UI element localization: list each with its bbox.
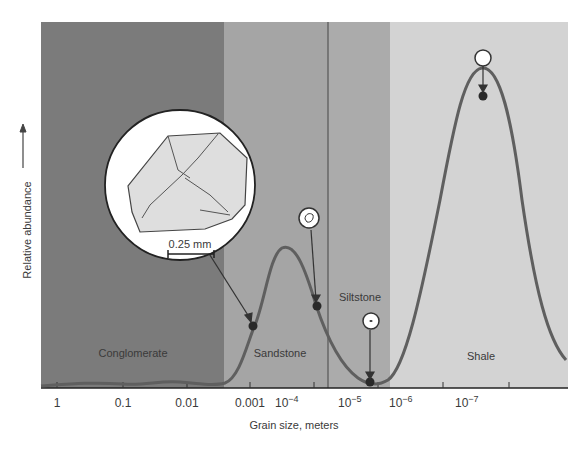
svg-text:10−7: 10−7 bbox=[455, 394, 479, 410]
svg-text:1: 1 bbox=[54, 396, 61, 410]
x-tick-labels: 1 0.1 0.01 0.001 10−4 10−5 10−6 10−7 bbox=[54, 394, 479, 410]
zone-shale bbox=[390, 22, 568, 388]
clay-particle-icon bbox=[475, 50, 491, 66]
marker-sand bbox=[249, 322, 258, 331]
sand-grain-inset: 0.25 mm bbox=[105, 110, 255, 260]
svg-text:0.1: 0.1 bbox=[115, 396, 132, 410]
svg-text:0.001: 0.001 bbox=[235, 396, 265, 410]
silt-grain-icon bbox=[299, 208, 319, 228]
svg-text:10−4: 10−4 bbox=[275, 394, 299, 410]
zone-siltstone bbox=[328, 22, 390, 388]
zone-label-conglomerate: Conglomerate bbox=[98, 347, 167, 359]
zone-label-siltstone: Siltstone bbox=[339, 291, 381, 303]
y-axis-arrow-icon bbox=[20, 124, 26, 168]
fine-silt-grain-icon bbox=[363, 313, 379, 329]
y-axis-title-group: Relative abundance bbox=[21, 181, 33, 278]
scale-bar-label: 0.25 mm bbox=[169, 238, 212, 250]
y-axis-title: Relative abundance bbox=[21, 181, 33, 278]
svg-text:10−6: 10−6 bbox=[389, 394, 413, 410]
zone-label-shale: Shale bbox=[467, 350, 495, 362]
marker-coarse-silt bbox=[313, 302, 322, 311]
x-axis-title: Grain size, meters bbox=[249, 419, 339, 431]
zone-label-sandstone: Sandstone bbox=[254, 347, 307, 359]
grain-size-chart: 0.25 mm Conglomerate Sandstone Siltstone… bbox=[0, 0, 585, 450]
svg-text:0.01: 0.01 bbox=[175, 396, 199, 410]
svg-text:10−5: 10−5 bbox=[338, 394, 362, 410]
